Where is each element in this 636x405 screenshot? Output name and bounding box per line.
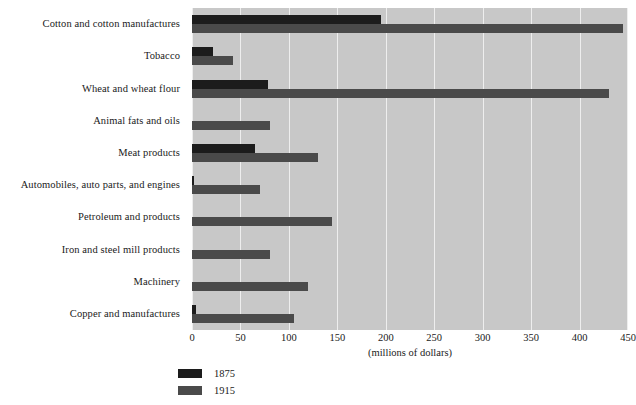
x-tick-label-150: 150: [329, 332, 345, 344]
bar-1875-10: [192, 305, 196, 314]
bar-1915-5: [192, 153, 318, 162]
bar-1915-2: [192, 56, 233, 65]
bar-group: [192, 241, 628, 259]
category-label-3: Wheat and wheat flour: [0, 83, 180, 94]
bar-group: [192, 112, 628, 130]
bar-group: [192, 144, 628, 162]
x-tick-label-450: 450: [620, 332, 636, 344]
bar-1915-8: [192, 250, 270, 259]
bar-1915-9: [192, 282, 308, 291]
x-tick-label-50: 50: [235, 332, 246, 344]
bar-1915-3: [192, 89, 609, 98]
category-label-8: Iron and steel mill products: [0, 244, 180, 255]
category-label-1: Cotton and cotton manufactures: [0, 18, 180, 29]
x-tick-label-300: 300: [475, 332, 491, 344]
legend-item-1875: 1875: [178, 366, 358, 381]
bar-group: [192, 15, 628, 33]
x-tick-label-400: 400: [572, 332, 588, 344]
legend-label-1915: 1915: [214, 385, 235, 397]
legend-item-1915: 1915: [178, 383, 358, 398]
category-label-2: Tobacco: [0, 50, 180, 61]
x-axis-title: (millions of dollars): [192, 347, 628, 359]
bar-1875-3: [192, 80, 268, 89]
x-tick-label-350: 350: [523, 332, 539, 344]
bar-group: [192, 208, 628, 226]
category-axis: Cotton and cotton manufacturesTobaccoWhe…: [0, 8, 186, 330]
legend-label-1875: 1875: [214, 368, 235, 380]
bar-group: [192, 80, 628, 98]
bar-group: [192, 176, 628, 194]
bar-1875-5: [192, 144, 255, 153]
x-tick-label-0: 0: [189, 332, 194, 344]
legend-swatch-1875: [178, 369, 202, 378]
x-tick-label-250: 250: [426, 332, 442, 344]
category-label-5: Meat products: [0, 147, 180, 158]
bar-1915-4: [192, 121, 270, 130]
category-label-7: Petroleum and products: [0, 211, 180, 222]
chart-legend: 18751915: [178, 366, 358, 400]
plot-area: [192, 8, 628, 330]
bar-1915-10: [192, 314, 294, 323]
bar-1915-1: [192, 24, 623, 33]
bar-group: [192, 273, 628, 291]
category-label-6: Automobiles, auto parts, and engines: [0, 179, 180, 190]
bar-group: [192, 305, 628, 323]
bar-1915-6: [192, 185, 260, 194]
category-label-4: Animal fats and oils: [0, 115, 180, 126]
legend-swatch-1915: [178, 386, 202, 395]
x-tick-label-200: 200: [378, 332, 394, 344]
bar-group: [192, 47, 628, 65]
x-tick-label-100: 100: [281, 332, 297, 344]
category-label-10: Copper and manufactures: [0, 308, 180, 319]
category-label-9: Machinery: [0, 276, 180, 287]
bar-1875-2: [192, 47, 213, 56]
bar-1915-7: [192, 217, 332, 226]
bar-1875-1: [192, 15, 381, 24]
bar-1875-6: [192, 176, 194, 185]
